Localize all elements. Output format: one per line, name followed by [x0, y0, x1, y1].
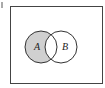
venn-diagram: A B — [0, 0, 105, 88]
set-label-b: B — [62, 41, 68, 52]
set-label-a: A — [33, 41, 41, 52]
circle-b — [45, 31, 77, 63]
